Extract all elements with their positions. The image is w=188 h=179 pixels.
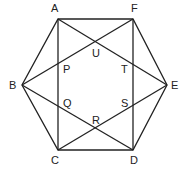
hexagon-outline [22,19,167,150]
point-label-P: P [63,64,70,75]
vertex-label-B: B [9,80,16,91]
segment-BD [22,85,133,150]
point-label-R: R [92,115,100,126]
vertex-label-E: E [171,80,178,91]
hexagon-diagram [0,0,188,179]
segment-FB [22,19,133,85]
vertex-label-A: A [51,3,58,14]
vertex-label-D: D [130,155,138,166]
vertex-label-C: C [51,155,59,166]
point-label-S: S [121,98,128,109]
vertex-label-F: F [131,3,138,14]
point-label-Q: Q [63,98,72,109]
point-label-U: U [92,48,100,59]
point-label-T: T [121,64,128,75]
